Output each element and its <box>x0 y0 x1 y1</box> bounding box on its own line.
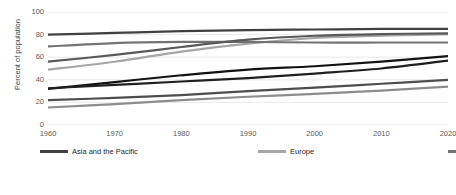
line-chart: Percent of population 020406080100 19601… <box>0 0 456 195</box>
y-tick-label: 60 <box>14 53 44 61</box>
legend-item[interactable]: Asia and the Pacific <box>40 146 258 157</box>
legend-item[interactable]: Europe <box>258 146 448 157</box>
x-tick-label: 1970 <box>95 129 135 138</box>
plot-area <box>48 12 448 125</box>
legend-swatch-icon <box>258 150 286 153</box>
y-tick-label: 100 <box>14 8 44 16</box>
chart-legend: Asia and the PacificEuropeNorth AmericaT… <box>40 146 440 188</box>
legend-swatch-icon <box>40 150 68 153</box>
y-tick-label: 40 <box>14 76 44 84</box>
legend-label: Europe <box>290 147 314 156</box>
legend-label: Asia and the Pacific <box>72 147 138 156</box>
x-tick-label: 1980 <box>161 129 201 138</box>
x-axis-tick-labels: 1960197019801990200020102020 <box>48 129 448 141</box>
legend-swatch-icon <box>448 150 456 153</box>
y-tick-label: 0 <box>14 121 44 129</box>
y-tick-label: 80 <box>14 31 44 39</box>
x-tick-label: 2020 <box>428 129 456 138</box>
x-tick-label: 1960 <box>28 129 68 138</box>
plot-svg <box>48 12 448 125</box>
x-tick-label: 1990 <box>228 129 268 138</box>
x-tick-label: 2000 <box>295 129 335 138</box>
series-lines <box>48 29 448 108</box>
y-tick-label: 20 <box>14 98 44 106</box>
legend-item[interactable]: North America <box>448 146 456 157</box>
chart-title <box>0 0 456 3</box>
y-axis-tick-labels: 020406080100 <box>10 12 44 125</box>
x-tick-label: 2010 <box>361 129 401 138</box>
